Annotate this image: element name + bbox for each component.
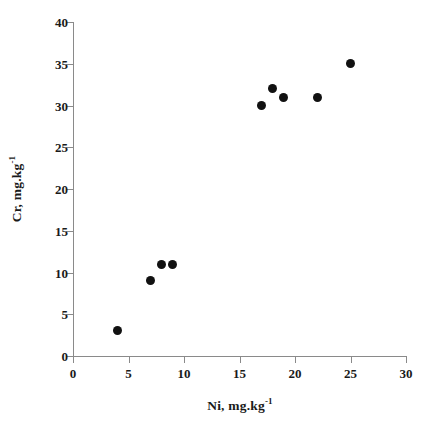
y-axis-tick-label: 0 xyxy=(62,350,69,363)
y-axis-title: Cr, mg.kg-1 xyxy=(7,156,25,223)
y-axis-tick-label: 35 xyxy=(55,57,68,70)
plot-area: 0510152025303540051015202530 xyxy=(73,22,406,356)
y-axis-tick-label: 30 xyxy=(55,99,68,112)
y-axis-title-exponent: -1 xyxy=(7,156,17,164)
x-axis-tick-label: 10 xyxy=(178,367,191,380)
scatter-plot-figure: 0510152025303540051015202530 Cr, mg.kg-1… xyxy=(0,0,434,428)
x-axis-tick xyxy=(351,356,352,363)
y-axis-tick-label: 40 xyxy=(55,16,68,29)
data-point xyxy=(157,260,166,269)
data-point xyxy=(146,276,155,285)
y-axis-line xyxy=(73,22,74,357)
x-axis-line xyxy=(73,356,407,357)
y-axis-tick-label: 5 xyxy=(62,308,69,321)
y-axis-tick-label: 15 xyxy=(55,224,68,237)
x-axis-tick-label: 30 xyxy=(400,367,413,380)
x-axis-tick xyxy=(73,356,74,363)
x-axis-title-text: Ni, mg.kg xyxy=(207,398,265,413)
x-axis-title: Ni, mg.kg-1 xyxy=(207,396,273,414)
x-axis-tick xyxy=(129,356,130,363)
y-axis-tick-label: 25 xyxy=(55,141,68,154)
x-axis-tick xyxy=(184,356,185,363)
y-axis-tick-label: 10 xyxy=(55,266,68,279)
x-axis-tick xyxy=(240,356,241,363)
x-axis-tick-label: 20 xyxy=(289,367,302,380)
caption-strip xyxy=(0,418,434,428)
x-axis-tick-label: 0 xyxy=(70,367,77,380)
y-axis-title-text: Cr, mg.kg xyxy=(9,164,24,223)
data-point xyxy=(346,59,355,68)
x-axis-tick xyxy=(295,356,296,363)
x-axis-tick xyxy=(406,356,407,363)
data-point xyxy=(268,84,277,93)
data-point xyxy=(279,93,288,102)
data-point xyxy=(313,93,322,102)
x-axis-tick-label: 5 xyxy=(125,367,132,380)
x-axis-tick-label: 15 xyxy=(233,367,246,380)
data-point xyxy=(168,260,177,269)
data-point xyxy=(113,326,122,335)
y-axis-tick-label: 20 xyxy=(55,183,68,196)
x-axis-title-exponent: -1 xyxy=(265,396,273,406)
x-axis-tick-label: 25 xyxy=(344,367,357,380)
data-point xyxy=(257,101,266,110)
